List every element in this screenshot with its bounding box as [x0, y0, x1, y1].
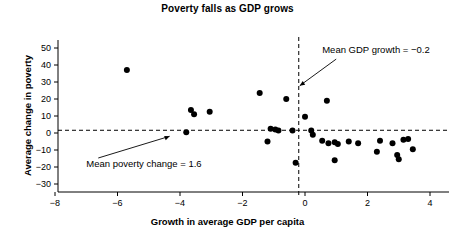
- mean-gdp-growth-annotation-arrowhead: [300, 81, 305, 86]
- x-axis-tick-labels: −8−6−4−2024: [50, 192, 433, 208]
- y-tick-label: −10: [36, 145, 51, 155]
- y-axis-tick-labels: 50403020100−10−20−30: [36, 43, 58, 189]
- x-tick-label: −4: [175, 198, 185, 208]
- data-point: [275, 127, 281, 133]
- data-point: [191, 111, 197, 117]
- x-tick-label: −6: [112, 198, 122, 208]
- data-point: [324, 98, 330, 104]
- axis-lines: [58, 40, 449, 192]
- data-point: [325, 140, 331, 146]
- y-axis-title: Average change in poverty: [22, 31, 33, 201]
- x-axis-title: Growth in average GDP per capita: [0, 216, 455, 227]
- y-tick-label: 50: [41, 43, 51, 53]
- x-tick-label: 0: [302, 198, 307, 208]
- mean-poverty-change-annotation-leader: [98, 136, 169, 158]
- x-tick-label: 4: [427, 198, 432, 208]
- data-points: [124, 67, 416, 166]
- x-tick-label: −2: [237, 198, 247, 208]
- y-tick-label: 20: [41, 94, 51, 104]
- y-tick-label: 40: [41, 60, 51, 70]
- data-point: [310, 132, 316, 138]
- y-tick-label: 10: [41, 111, 51, 121]
- x-tick-label: 2: [365, 198, 370, 208]
- mean-poverty-change-annotation: Mean poverty change = 1.6: [86, 158, 201, 169]
- data-point: [377, 138, 383, 144]
- data-point: [346, 139, 352, 145]
- y-tick-label: 30: [41, 77, 51, 87]
- data-point: [257, 90, 263, 96]
- data-point: [124, 67, 130, 73]
- scatter-plot: −8−6−4−2024 50403020100−10−20−30 Mean GD…: [0, 0, 455, 239]
- data-point: [410, 146, 416, 152]
- data-point: [335, 141, 341, 147]
- mean-gdp-growth-annotation-leader: [300, 59, 336, 86]
- mean-gdp-growth-annotation: Mean GDP growth = −0.2: [322, 44, 430, 55]
- reference-lines: [58, 37, 449, 198]
- data-point: [293, 160, 299, 166]
- data-point: [355, 140, 361, 146]
- data-point: [207, 109, 213, 115]
- data-point: [290, 127, 296, 133]
- data-point: [390, 140, 396, 146]
- y-tick-label: −20: [36, 162, 51, 172]
- data-point: [183, 129, 189, 135]
- x-tick-label: −8: [50, 198, 60, 208]
- data-point: [283, 96, 289, 102]
- data-point: [374, 149, 380, 155]
- data-point: [396, 156, 402, 162]
- data-point: [405, 136, 411, 142]
- data-point: [302, 114, 308, 120]
- chart-figure: Poverty falls as GDP grows −8−6−4−2024 5…: [0, 0, 455, 239]
- y-tick-label: −30: [36, 179, 51, 189]
- data-point: [332, 157, 338, 163]
- data-point: [319, 138, 325, 144]
- data-point: [265, 139, 271, 145]
- y-tick-label: 0: [46, 128, 51, 138]
- mean-poverty-change-annotation-arrowhead: [164, 136, 169, 140]
